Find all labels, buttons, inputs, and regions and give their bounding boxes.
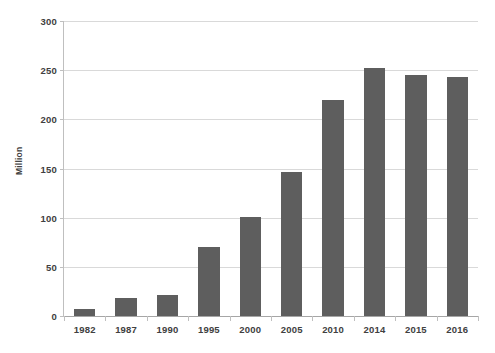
bar[interactable] [198,247,220,316]
x-axis-label: 2010 [322,324,344,335]
y-axis-label: 50 [46,261,57,272]
y-axis-label: 250 [41,65,57,76]
y-axis-label: 200 [41,114,57,125]
y-axis-label: 150 [41,163,57,174]
bars-layer [64,21,478,316]
x-axis-tick [230,316,231,321]
x-axis-tick [64,316,65,321]
bar[interactable] [405,75,427,316]
bar-slot [395,21,436,316]
x-axis-label: 1982 [74,324,96,335]
bar[interactable] [322,100,344,316]
bar-slot [147,21,188,316]
bar-slot [271,21,312,316]
x-axis-label: 2000 [239,324,261,335]
x-axis-tick [188,316,189,321]
bar-slot [230,21,271,316]
x-axis-tick [312,316,313,321]
bar-slot [437,21,478,316]
bar[interactable] [281,172,303,316]
x-axis-label: 1995 [198,324,220,335]
bar[interactable] [447,77,469,316]
bar-slot [64,21,105,316]
bar[interactable] [240,217,262,316]
bar-slot [312,21,353,316]
bar-slot [354,21,395,316]
x-axis-tick [354,316,355,321]
y-axis-label: 0 [52,311,57,322]
x-axis-tick [395,316,396,321]
x-axis-tick [271,316,272,321]
x-axis-label: 2015 [405,324,427,335]
bar[interactable] [74,309,96,316]
bar-chart: Million 050100150200250300 1982198719901… [0,0,495,353]
bar[interactable] [157,295,179,316]
y-axis-label: 300 [41,16,57,27]
x-axis-label: 2014 [364,324,386,335]
x-axis-label: 1987 [115,324,137,335]
x-axis-tick [105,316,106,321]
x-axis-tick [478,316,479,321]
bar-slot [188,21,229,316]
y-axis-title: Million [14,147,24,175]
y-axis-label: 100 [41,212,57,223]
bar[interactable] [115,298,137,316]
x-axis-label: 1990 [157,324,179,335]
x-axis-tick [437,316,438,321]
x-axis-tick [147,316,148,321]
x-axis-label: 2005 [281,324,303,335]
bar-slot [105,21,146,316]
x-axis-label: 2016 [446,324,468,335]
bar[interactable] [364,68,386,316]
